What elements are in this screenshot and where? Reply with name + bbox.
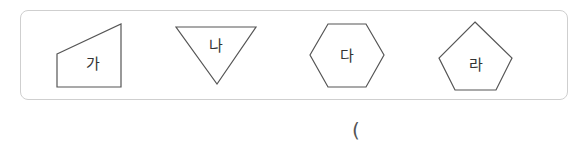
shapes-canvas — [0, 0, 583, 149]
answer-bracket-open: ( — [352, 118, 360, 142]
shape-label-na: 나 — [209, 39, 223, 54]
shape-label-da: 다 — [340, 49, 354, 64]
shape-label-ga: 가 — [86, 57, 100, 72]
shape-label-ra: 라 — [469, 58, 483, 73]
